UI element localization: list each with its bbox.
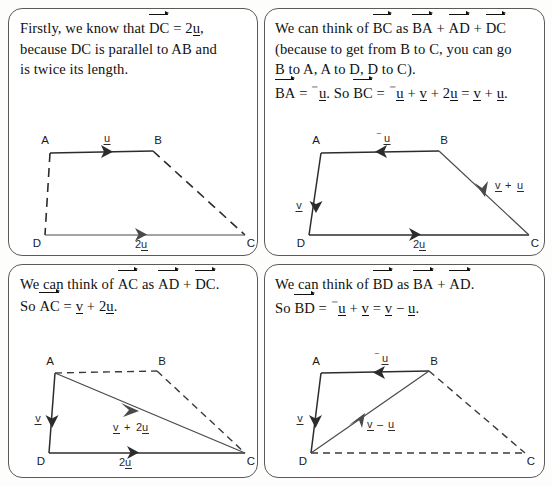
vector-ad: AD bbox=[158, 273, 179, 295]
vector-u: u bbox=[497, 86, 504, 101]
text-fragment: = bbox=[458, 85, 474, 101]
vertex-label-b: B bbox=[158, 355, 166, 367]
edge-bc-dashed bbox=[429, 371, 525, 453]
panel-1-line-3: is twice its length. bbox=[20, 59, 249, 80]
edge-ac-diagonal bbox=[55, 373, 245, 453]
vector-u: u bbox=[193, 21, 200, 36]
edge-label-2u: 2u bbox=[413, 238, 425, 250]
edge-label-v-plus-2u-v: v bbox=[113, 421, 119, 433]
edge-bc-dashed bbox=[157, 371, 245, 453]
text-fragment: So bbox=[20, 298, 39, 314]
text-fragment: = bbox=[315, 300, 331, 316]
text-fragment: + bbox=[404, 85, 420, 101]
edge-label-v-plus-2u-2u: 2u bbox=[136, 421, 148, 433]
text-fragment: . bbox=[114, 298, 118, 314]
edge-ad-dashed bbox=[45, 153, 50, 235]
text-fragment: + 2 bbox=[83, 298, 106, 314]
arrowhead-ad bbox=[310, 201, 323, 213]
edge-ab bbox=[50, 151, 153, 153]
edge-ad bbox=[311, 373, 321, 453]
edge-label-v-minus-u-op: – bbox=[377, 418, 384, 430]
text-fragment: as bbox=[392, 20, 412, 36]
negative-sign-u: ⁻ bbox=[374, 349, 380, 361]
text-fragment: + bbox=[470, 20, 486, 36]
panel-4-line-2: So BD = ⁻u + v = v − u. bbox=[275, 295, 536, 319]
vector-u: u bbox=[450, 86, 457, 101]
edge-label-v-plus-u-op: + bbox=[505, 179, 511, 191]
diagram-trapezium-ac-route: A B D C v 2u v + 2u bbox=[17, 355, 257, 467]
vector-bd: BD bbox=[294, 297, 314, 319]
vector-dc: DC bbox=[195, 273, 215, 295]
panel-2-line-2: (because to get from B to C, you can go bbox=[275, 39, 536, 60]
text-fragment: , bbox=[200, 20, 204, 36]
text-fragment: as bbox=[393, 276, 413, 292]
vector-v: v bbox=[420, 86, 427, 101]
panel-bc-decomposition: We can think of BC as BA + AD + DC (beca… bbox=[264, 8, 545, 256]
diagram-trapezium-bc-route: A B D C ⁻ u v 2u v + u bbox=[279, 131, 541, 249]
text-fragment: We can think of bbox=[20, 276, 118, 292]
vertex-label-a: A bbox=[46, 355, 54, 367]
vertex-label-d: D bbox=[37, 455, 45, 467]
edge-bd-diagonal bbox=[311, 371, 429, 453]
vertex-label-b: B bbox=[154, 134, 162, 146]
text-fragment: Firstly, we know that bbox=[20, 20, 149, 36]
vector-dc: DC bbox=[486, 17, 506, 39]
vector-ad: AD bbox=[449, 273, 470, 295]
text-fragment: + bbox=[179, 276, 195, 292]
vector-u: u bbox=[338, 301, 345, 316]
panel-2-line-3: B to A, A to D, D to C). bbox=[275, 59, 536, 80]
vector-bc: BC bbox=[353, 82, 373, 104]
panel-3-text: We can think of AC as AD + DC. So AC = v… bbox=[20, 273, 249, 316]
edge-label-v-plus-u-u: u bbox=[517, 179, 523, 191]
vertex-label-c: C bbox=[527, 455, 535, 467]
negative-sign: ⁻ bbox=[389, 82, 396, 97]
vector-ac: AC bbox=[39, 295, 59, 317]
vertex-label-d: D bbox=[299, 455, 307, 467]
edge-ad bbox=[49, 373, 55, 453]
vertex-label-c: C bbox=[247, 455, 255, 467]
vertex-label-b: B bbox=[430, 355, 438, 367]
vector-u: u bbox=[106, 299, 113, 314]
panel-2-line-4: BA = ⁻u. So BC = ⁻u + v + 2u = v + u. bbox=[275, 80, 536, 104]
text-fragment: = bbox=[373, 85, 389, 101]
text-fragment: . bbox=[415, 300, 419, 316]
text-fragment: + bbox=[434, 276, 450, 292]
vector-v: v bbox=[473, 86, 480, 101]
diagram-trapezium-ab-dc: A B D C u 2u bbox=[17, 131, 257, 249]
vector-v: v bbox=[362, 301, 369, 316]
panel-1-line-1: Firstly, we know that DC = 2u, bbox=[20, 17, 249, 39]
edge-label-v: v bbox=[296, 199, 302, 211]
arrowhead-bd bbox=[349, 413, 365, 428]
text-fragment: So bbox=[275, 300, 294, 316]
panel-4-text: We can think of BD as BA + AD. So BD = ⁻… bbox=[275, 273, 536, 318]
edge-label-u: u bbox=[104, 132, 110, 144]
text-fragment: = bbox=[369, 300, 385, 316]
panel-3-line-2: So AC = v + 2u. bbox=[20, 295, 249, 317]
panel-bd-decomposition: We can think of BD as BA + AD. So BD = ⁻… bbox=[264, 264, 545, 478]
vector-ba: BA bbox=[275, 82, 295, 104]
vertex-label-a: A bbox=[312, 134, 320, 146]
edge-label-neg-u: u bbox=[384, 132, 390, 144]
negative-sign-u: ⁻ bbox=[376, 129, 382, 141]
panel-1-line-2: because DC is parallel to AB and bbox=[20, 39, 249, 60]
vector-ba: BA bbox=[413, 273, 433, 295]
vector-v: v bbox=[76, 299, 83, 314]
vertex-label-c: C bbox=[531, 237, 539, 249]
text-fragment: . bbox=[504, 85, 508, 101]
edge-label-v-minus-u-v: v bbox=[367, 418, 373, 430]
negative-sign: ⁻ bbox=[331, 297, 338, 312]
vertex-label-d: D bbox=[297, 237, 305, 249]
panel-1-text: Firstly, we know that DC = 2u, because D… bbox=[20, 17, 249, 80]
diagram-trapezium-bd-route: A B D C ⁻ u v v – u bbox=[279, 355, 541, 467]
text-fragment: as bbox=[138, 276, 158, 292]
text-fragment: + bbox=[433, 20, 449, 36]
panel-ac-decomposition: We can think of AC as AD + DC. So AC = v… bbox=[8, 264, 258, 478]
edge-label-v-plus-2u-op: + bbox=[124, 421, 130, 433]
text-fragment: = 2 bbox=[169, 20, 192, 36]
vertex-label-a: A bbox=[41, 134, 49, 146]
edge-ad bbox=[309, 153, 321, 235]
vector-dc: DC bbox=[149, 17, 169, 39]
text-fragment: + bbox=[346, 300, 362, 316]
vertex-label-a: A bbox=[312, 355, 320, 367]
text-fragment: − bbox=[392, 300, 408, 316]
